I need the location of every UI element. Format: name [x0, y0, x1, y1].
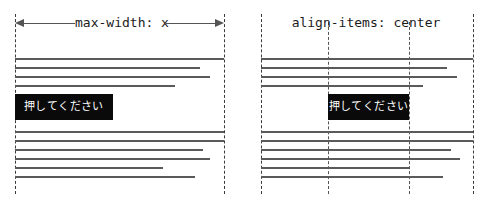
arrow-right-head-icon — [215, 19, 224, 27]
panel-max-width: max-width: x 押してください — [0, 0, 244, 207]
diagram-canvas: max-width: x 押してください align-items: center… — [0, 0, 488, 207]
text-line — [261, 167, 410, 169]
text-line — [15, 158, 210, 160]
text-line — [261, 131, 473, 133]
text-line — [15, 149, 203, 151]
text-line — [261, 158, 460, 160]
guide-line-right — [473, 14, 474, 194]
arrow-segment-right — [165, 23, 219, 24]
press-me-button[interactable]: 押してください — [328, 94, 409, 120]
text-line — [261, 76, 457, 78]
text-line — [261, 58, 473, 60]
text-line — [15, 167, 163, 169]
guide-line-right — [224, 14, 225, 194]
text-line — [15, 58, 224, 60]
text-line — [15, 85, 175, 87]
text-line — [261, 85, 423, 87]
text-line — [15, 131, 224, 133]
panel-caption-align-items: align-items: center — [244, 13, 488, 33]
text-line — [15, 67, 200, 69]
text-line — [15, 140, 224, 142]
text-line — [261, 140, 473, 142]
arrow-segment-left — [21, 23, 75, 24]
text-line — [261, 176, 443, 178]
press-me-button[interactable]: 押してください — [15, 94, 113, 120]
text-line — [261, 149, 451, 151]
max-width-measure-arrow — [15, 23, 224, 25]
text-line — [15, 176, 195, 178]
text-line — [15, 76, 210, 78]
panel-align-items: align-items: center 押してください — [244, 0, 488, 207]
text-line — [261, 67, 447, 69]
